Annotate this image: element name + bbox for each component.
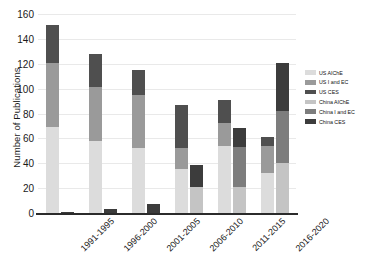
x-tick-label: 1991-1995 — [78, 216, 116, 254]
legend-item[interactable]: US I and EC — [305, 78, 377, 87]
y-tick-label: 60 — [23, 133, 34, 144]
legend-label: China AIChE — [319, 99, 349, 105]
bar-china[interactable] — [233, 128, 246, 213]
bar-segment — [261, 146, 274, 173]
x-axis-line — [36, 213, 298, 215]
bar-segment — [190, 187, 203, 213]
chart-figure: Number of Publications 02040608010012014… — [0, 0, 378, 271]
bar-us[interactable] — [89, 54, 102, 213]
plot-area: 020406080100120140160 — [38, 14, 296, 213]
legend-swatch-icon — [305, 70, 316, 75]
bar-segment — [89, 141, 102, 213]
y-tick-label: 160 — [17, 9, 34, 20]
bar-segment — [218, 146, 231, 213]
bar-segment — [175, 169, 188, 213]
gridline — [38, 114, 296, 115]
legend-swatch-icon — [305, 119, 316, 124]
bar-china[interactable] — [147, 204, 160, 213]
bar-segment — [89, 87, 102, 140]
bar-us[interactable] — [261, 137, 274, 213]
gridline — [38, 64, 296, 65]
bar-segment — [147, 204, 160, 213]
bar-segment — [132, 95, 145, 148]
bar-segment — [218, 123, 231, 145]
legend-swatch-icon — [305, 80, 316, 85]
bar-china[interactable] — [190, 165, 203, 214]
legend-label: US CES — [319, 89, 339, 95]
y-tick-label: 20 — [23, 183, 34, 194]
bar-segment — [132, 148, 145, 213]
gridline — [38, 138, 296, 139]
bar-segment — [175, 148, 188, 169]
bar-segment — [276, 63, 289, 112]
x-tick-label: 2001-2005 — [164, 216, 202, 254]
gridline — [38, 163, 296, 164]
bar-us[interactable] — [132, 70, 145, 213]
legend-item[interactable]: China CES — [305, 117, 377, 126]
legend-swatch-icon — [305, 109, 316, 114]
bar-segment — [261, 137, 274, 146]
x-tick-label: 2011-2015 — [250, 216, 287, 253]
bar-segment — [276, 111, 289, 163]
y-tick-label: 120 — [17, 58, 34, 69]
x-tick-label: 2016-2020 — [293, 216, 331, 254]
bar-segment — [218, 100, 231, 124]
bar-segment — [233, 147, 246, 187]
legend-swatch-icon — [305, 100, 316, 105]
chart-legend: US AIChEUS I and ECUS CESChina AIChEChin… — [305, 68, 377, 127]
bar-segment — [46, 63, 59, 128]
legend-item[interactable]: China I and EC — [305, 107, 377, 116]
gridline — [38, 188, 296, 189]
bar-segment — [46, 25, 59, 62]
gridline — [38, 89, 296, 90]
bar-segment — [276, 163, 289, 213]
x-tick-label: 2006-2010 — [207, 216, 245, 254]
bar-segment — [132, 70, 145, 95]
legend-item[interactable]: US CES — [305, 88, 377, 97]
legend-label: US AIChE — [319, 70, 343, 76]
y-tick-label: 0 — [28, 208, 34, 219]
bar-segment — [261, 173, 274, 213]
legend-label: China I and EC — [319, 109, 355, 115]
bar-segment — [190, 165, 203, 187]
bar-segment — [233, 128, 246, 147]
legend-item[interactable]: US AIChE — [305, 68, 377, 77]
y-tick-label: 140 — [17, 33, 34, 44]
bar-china[interactable] — [276, 63, 289, 213]
x-tick-label: 1996-2000 — [121, 216, 159, 254]
bar-us[interactable] — [218, 100, 231, 213]
bar-segment — [175, 105, 188, 149]
bar-segment — [233, 187, 246, 213]
bar-us[interactable] — [46, 25, 59, 213]
y-tick-label: 80 — [23, 108, 34, 119]
y-tick-label: 40 — [23, 158, 34, 169]
legend-label: US I and EC — [319, 79, 348, 85]
bar-us[interactable] — [175, 105, 188, 213]
legend-swatch-icon — [305, 90, 316, 95]
legend-item[interactable]: China AIChE — [305, 97, 377, 106]
gridline — [38, 39, 296, 40]
y-tick-label: 100 — [17, 83, 34, 94]
bar-segment — [46, 127, 59, 213]
bar-segment — [89, 54, 102, 88]
gridline — [38, 14, 296, 15]
legend-label: China CES — [319, 119, 345, 125]
